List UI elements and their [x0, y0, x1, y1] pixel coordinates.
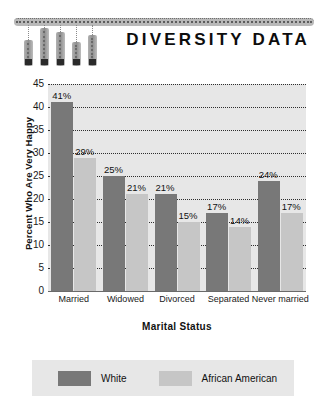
bar-white	[103, 176, 125, 291]
logo-bar-foot	[57, 59, 64, 65]
y-axis-tick: 5	[14, 263, 44, 273]
legend-swatch	[58, 371, 91, 386]
bar-african-american	[74, 158, 96, 291]
logo-stem-1	[28, 25, 29, 40]
bar-value-label: 17%	[282, 202, 301, 212]
page-title: DIVERSITY DATA	[126, 30, 310, 50]
y-axis-tick: 45	[14, 79, 44, 89]
y-axis-tick: 15	[14, 217, 44, 227]
logo-bar-foot	[41, 59, 48, 65]
bar-white	[258, 181, 280, 291]
logo-bar-5	[88, 35, 97, 66]
logo-bar-dots	[75, 45, 79, 58]
logo-bar-foot	[73, 59, 80, 65]
y-axis-tick: 0	[14, 286, 44, 296]
legend-item-african-american: African American	[159, 371, 278, 386]
legend-label: White	[101, 373, 127, 384]
bar-african-american	[178, 222, 200, 291]
header: DIVERSITY DATA	[0, 0, 324, 80]
logo-bar-4	[72, 42, 81, 66]
bar-value-label: 17%	[207, 202, 226, 212]
bar-value-label: 41%	[52, 91, 71, 101]
bar-value-label: 29%	[75, 147, 94, 157]
logo-bar-dots	[43, 31, 47, 58]
legend-label: African American	[202, 373, 278, 384]
logo-bar-dots	[59, 35, 63, 58]
x-axis-line	[48, 291, 306, 292]
bar-value-label: 14%	[230, 216, 249, 226]
bar-value-label: 21%	[156, 183, 175, 193]
y-axis-tick: 35	[14, 125, 44, 135]
logo-bar-dots	[27, 43, 31, 58]
y-axis-tick: 20	[14, 194, 44, 204]
bar-group-widowed: 25%21%	[101, 84, 150, 291]
bar-white	[51, 102, 73, 291]
bar-african-american	[281, 213, 303, 291]
bar-white	[155, 194, 177, 291]
bar-group-married: 41%29%	[49, 84, 98, 291]
logo-bar-foot	[89, 59, 96, 65]
plot-area: 41%29%25%21%21%15%17%14%24%17%	[48, 84, 306, 291]
legend-swatch	[159, 371, 192, 386]
bar-african-american	[126, 194, 148, 291]
logo-stem-4	[76, 25, 77, 42]
bar-group-divorced: 21%15%	[153, 84, 202, 291]
logo-rail-icon	[14, 18, 314, 26]
logo-bar-dots	[91, 38, 95, 58]
y-axis-tick: 30	[14, 148, 44, 158]
bar-african-american	[229, 227, 251, 291]
diversity-data-logo	[14, 18, 106, 74]
logo-bar-foot	[25, 59, 32, 65]
y-axis-tick: 40	[14, 102, 44, 112]
bar-white	[206, 213, 228, 291]
diversity-bar-chart: Percent Who Are Very Happy 41%29%25%21%2…	[0, 78, 324, 328]
bar-value-label: 25%	[104, 165, 123, 175]
bar-value-label: 24%	[259, 170, 278, 180]
chart-legend: WhiteAfrican American	[32, 360, 294, 396]
y-axis-tick: 25	[14, 171, 44, 181]
x-axis-tick: Never married	[248, 294, 313, 305]
logo-bar-1	[24, 40, 33, 66]
x-axis-label: Marital Status	[48, 321, 306, 332]
legend-item-white: White	[58, 371, 127, 386]
logo-stem-5	[92, 25, 93, 35]
logo-stem-3	[60, 25, 61, 32]
bar-value-label: 15%	[179, 211, 198, 221]
bar-group-separated: 17%14%	[204, 84, 253, 291]
y-axis-tick: 10	[14, 240, 44, 250]
bar-value-label: 21%	[127, 183, 146, 193]
logo-bar-2	[40, 28, 49, 66]
bar-group-never-married: 24%17%	[256, 84, 305, 291]
logo-bar-3	[56, 32, 65, 66]
